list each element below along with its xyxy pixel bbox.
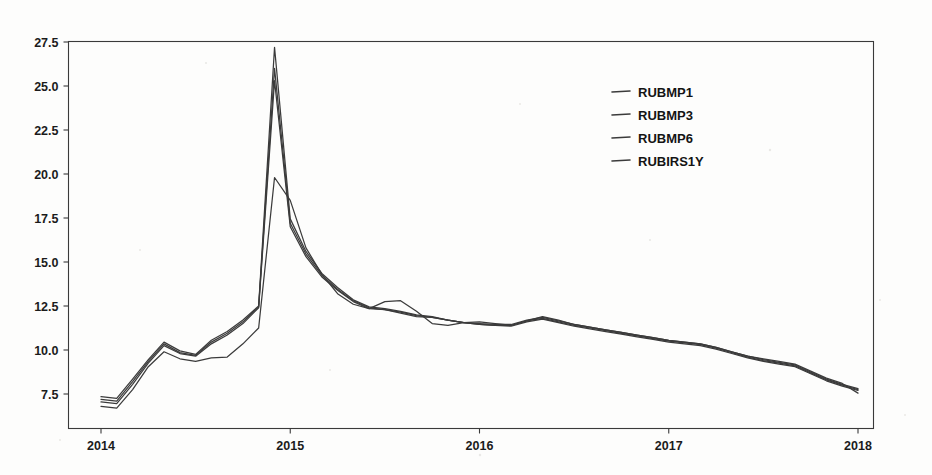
legend-item-label: RUBMP3 [638, 108, 693, 123]
scan-noise [59, 62, 906, 456]
x-tick: 2018 [844, 429, 872, 453]
x-tick-label: 2014 [87, 439, 115, 453]
y-tick-label: 7.5 [41, 388, 58, 402]
y-tick-label: 22.5 [34, 124, 58, 138]
y-tick: 20.0 [34, 168, 68, 182]
legend-swatch-icon [612, 160, 630, 161]
y-tick: 25.0 [34, 80, 68, 94]
x-tick-label: 2018 [844, 439, 872, 453]
y-tick-label: 17.5 [34, 212, 58, 226]
x-tick: 2015 [276, 429, 304, 453]
x-axis: 20142015201620172018 [87, 429, 872, 453]
legend-swatch-icon [612, 137, 630, 138]
x-tick: 2016 [466, 429, 494, 453]
series-group [101, 47, 858, 408]
y-tick-label: 10.0 [34, 344, 58, 358]
y-tick-label: 15.0 [34, 256, 58, 270]
y-tick-label: 27.5 [34, 36, 58, 50]
y-tick-label: 25.0 [34, 80, 58, 94]
y-tick: 15.0 [34, 256, 68, 270]
legend-item-rubirs1y: RUBIRS1Y [612, 154, 704, 169]
legend-swatch-icon [612, 91, 630, 92]
series-line-rubmp1 [101, 47, 858, 398]
chart-legend: RUBMP1RUBMP3RUBMP6RUBIRS1Y [612, 85, 704, 169]
legend-item-label: RUBMP1 [638, 85, 693, 100]
x-tick-label: 2017 [655, 439, 683, 453]
legend-item-rubmp3: RUBMP3 [612, 108, 693, 123]
x-tick: 2017 [655, 429, 683, 453]
series-line-rubirs1y [101, 178, 858, 409]
legend-swatch-icon [612, 114, 630, 115]
legend-item-label: RUBIRS1Y [638, 154, 704, 169]
y-tick: 10.0 [34, 344, 68, 358]
series-line-rubmp3 [101, 68, 858, 401]
legend-item-label: RUBMP6 [638, 131, 693, 146]
y-tick: 27.5 [34, 36, 68, 50]
x-tick-label: 2015 [276, 439, 304, 453]
y-tick-label: 12.5 [34, 300, 58, 314]
y-tick: 22.5 [34, 124, 68, 138]
line-chart: 7.510.012.515.017.520.022.525.027.5 2014… [0, 0, 932, 475]
x-tick-label: 2016 [466, 439, 494, 453]
legend-item-rubmp6: RUBMP6 [612, 131, 693, 146]
plot-frame [69, 42, 874, 429]
chart-figure: 7.510.012.515.017.520.022.525.027.5 2014… [0, 0, 932, 475]
y-tick-label: 20.0 [34, 168, 58, 182]
x-tick: 2014 [87, 429, 115, 453]
y-tick: 12.5 [34, 300, 68, 314]
y-tick: 17.5 [34, 212, 68, 226]
y-tick: 7.5 [41, 388, 68, 402]
y-axis: 7.510.012.515.017.520.022.525.027.5 [34, 36, 68, 402]
legend-item-rubmp1: RUBMP1 [612, 85, 693, 100]
